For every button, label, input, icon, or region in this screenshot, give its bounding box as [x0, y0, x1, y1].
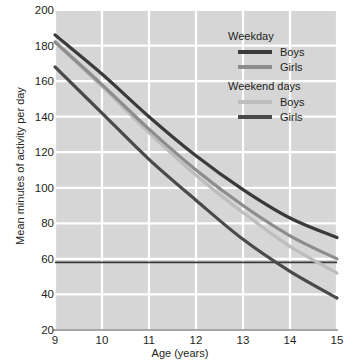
legend-item: Boys — [228, 94, 338, 109]
legend-swatch-icon — [238, 50, 272, 54]
x-tick-label: 10 — [82, 334, 122, 346]
y-tick-label: 200 — [20, 5, 54, 16]
legend-item: Girls — [228, 109, 338, 124]
legend-item-label: Boys — [280, 96, 304, 108]
legend-group-heading: Weekend days — [228, 80, 338, 92]
legend-swatch-icon — [238, 65, 272, 69]
legend-item-label: Boys — [280, 46, 304, 58]
legend-item: Boys — [228, 44, 338, 59]
x-tick-label: 13 — [223, 334, 263, 346]
legend-swatch-icon — [238, 115, 272, 119]
x-tick-label: 11 — [129, 334, 169, 346]
x-tick-label: 14 — [270, 334, 310, 346]
x-axis-title: Age (years) — [0, 347, 360, 359]
legend-swatch-icon — [238, 100, 272, 104]
x-tick-label: 12 — [176, 334, 216, 346]
x-tick-label: 15 — [317, 334, 357, 346]
y-tick-label: 40 — [20, 289, 54, 300]
x-tick-label: 9 — [35, 334, 75, 346]
y-axis-title: Mean minutes of activity per day — [14, 46, 26, 286]
legend-item-label: Girls — [280, 111, 303, 123]
legend-item: Girls — [228, 59, 338, 74]
chart-figure: 20018016014012010080604020 Age (years) M… — [0, 0, 360, 360]
legend-group-heading: Weekday — [228, 30, 338, 42]
legend-item-label: Girls — [280, 61, 303, 73]
chart-legend: WeekdayBoysGirlsWeekend daysBoysGirls — [228, 30, 338, 124]
